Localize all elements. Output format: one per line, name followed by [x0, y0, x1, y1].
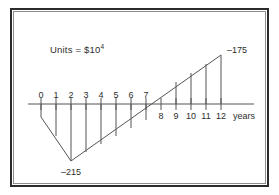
trough-value-label: –215 [61, 167, 81, 177]
xtick-label-2: 2 [68, 90, 73, 100]
xtick-label-7: 7 [143, 90, 148, 100]
xtick-label-10: 10 [186, 111, 196, 121]
figure-container: Units = $104 [0, 0, 279, 195]
xtick-label-5: 5 [113, 90, 118, 100]
negative-cashflow-bars [56, 104, 146, 161]
chart-graphics [14, 12, 265, 183]
xtick-label-3: 3 [83, 90, 88, 100]
peak-value-label: –175 [227, 45, 247, 55]
xtick-label-9: 9 [173, 111, 178, 121]
xtick-label-6: 6 [128, 90, 133, 100]
xtick-label-4: 4 [98, 90, 103, 100]
xtick-label-12: 12 [216, 111, 226, 121]
positive-cashflow-bars [176, 55, 221, 104]
xtick-label-11: 11 [201, 111, 210, 121]
xtick-label-1: 1 [53, 90, 58, 100]
plot-area: Units = $104 [14, 12, 265, 183]
x-axis-title: years [233, 111, 255, 121]
xtick-label-8: 8 [158, 111, 163, 121]
xtick-label-0: 0 [38, 90, 43, 100]
